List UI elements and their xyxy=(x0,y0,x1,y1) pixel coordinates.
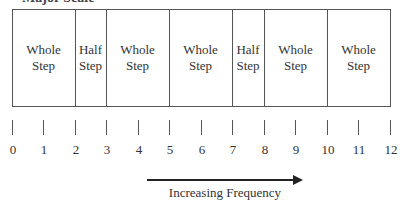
step-cell-whole: WholeStep xyxy=(327,9,390,107)
step-label: Whole xyxy=(341,42,376,57)
tick-mark xyxy=(106,120,107,135)
tick-label: 3 xyxy=(95,142,119,158)
step-cell-half: HalfStep xyxy=(232,9,264,107)
step-label: Half xyxy=(79,42,102,57)
tick-label: 0 xyxy=(1,142,25,158)
step-label: Whole xyxy=(278,42,313,57)
tick-mark xyxy=(169,120,170,135)
arrow-line xyxy=(147,179,295,181)
diagram-title: Major Scale xyxy=(22,0,94,6)
tick-label: 10 xyxy=(316,142,340,158)
tick-label: 4 xyxy=(127,142,151,158)
tick-mark xyxy=(327,120,328,135)
tick-mark xyxy=(295,120,296,135)
step-label: Step xyxy=(32,58,55,73)
tick-label: 2 xyxy=(64,142,88,158)
step-label: Step xyxy=(189,58,212,73)
tick-label: 1 xyxy=(32,142,56,158)
arrow-right-icon xyxy=(293,175,303,185)
tick-label: 7 xyxy=(221,142,245,158)
step-label: Step xyxy=(79,58,102,73)
tick-mark xyxy=(264,120,265,135)
tick-mark xyxy=(138,120,139,135)
tick-label: 11 xyxy=(347,142,371,158)
step-label: Step xyxy=(236,58,259,73)
tick-label: 6 xyxy=(190,142,214,158)
tick-label: 9 xyxy=(284,142,308,158)
tick-mark xyxy=(358,120,359,135)
arrow-label: Increasing Frequency xyxy=(150,185,300,201)
step-label: Step xyxy=(347,58,370,73)
step-cell-whole: WholeStep xyxy=(12,9,75,107)
tick-mark xyxy=(43,120,44,135)
step-label: Half xyxy=(236,42,259,57)
tick-label: 5 xyxy=(158,142,182,158)
tick-mark xyxy=(201,120,202,135)
step-label: Step xyxy=(126,58,149,73)
tick-mark xyxy=(232,120,233,135)
step-cell-whole: WholeStep xyxy=(169,9,232,107)
step-label: Whole xyxy=(183,42,218,57)
step-label: Whole xyxy=(26,42,61,57)
step-label: Step xyxy=(284,58,307,73)
tick-mark xyxy=(12,120,13,135)
tick-mark xyxy=(75,120,76,135)
tick-mark xyxy=(390,120,391,135)
tick-label: 8 xyxy=(253,142,277,158)
step-cell-half: HalfStep xyxy=(75,9,106,107)
step-label: Whole xyxy=(120,42,155,57)
step-cell-whole: WholeStep xyxy=(106,9,169,107)
step-cell-whole: WholeStep xyxy=(264,9,327,107)
tick-label: 12 xyxy=(379,142,403,158)
